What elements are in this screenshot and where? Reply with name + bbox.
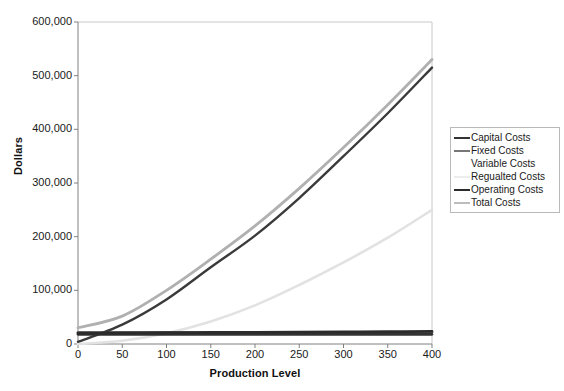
y-axis-tick-label: 400,000 (6, 122, 72, 134)
legend-color-swatch (453, 184, 471, 195)
legend-item-label: Fixed Costs (471, 144, 524, 157)
legend-item-label: Total Costs (471, 196, 520, 209)
x-axis-tick-label: 150 (189, 348, 233, 360)
y-axis-tick-label: 200,000 (6, 230, 72, 242)
y-axis-tick-label: 600,000 (6, 15, 72, 27)
x-axis-title: Production Level (78, 367, 432, 379)
legend-item[interactable]: Fixed Costs (453, 144, 557, 157)
x-axis-tick-label: 0 (56, 348, 100, 360)
x-axis-tick-label: 50 (100, 348, 144, 360)
legend-color-swatch (453, 197, 471, 208)
legend-item[interactable]: Operating Costs (453, 183, 557, 196)
legend-color-swatch (453, 171, 471, 182)
legend-item-label: Capital Costs (471, 131, 530, 144)
plot-background (78, 22, 432, 344)
cost-chart: Dollars 0100,000200,000300,000400,000500… (0, 0, 564, 391)
legend-item-label: Variable Costs (471, 157, 535, 170)
series-line (78, 331, 432, 333)
y-axis-tick-labels: 0100,000200,000300,000400,000500,000600,… (6, 0, 72, 391)
legend-color-swatch (453, 145, 471, 156)
x-axis-tick-label: 300 (322, 348, 366, 360)
x-axis-tick-label: 400 (410, 348, 454, 360)
y-axis-tick-label: 500,000 (6, 69, 72, 81)
legend-color-swatch (453, 132, 471, 143)
y-axis-tick-label: 100,000 (6, 283, 72, 295)
legend-item-label: Operating Costs (471, 183, 543, 196)
legend-item-label: Regualted Costs (471, 170, 545, 183)
chart-legend: Capital CostsFixed CostsVariable CostsRe… (450, 127, 560, 213)
x-axis-tick-label: 250 (277, 348, 321, 360)
x-axis-tick-label: 200 (233, 348, 277, 360)
legend-item[interactable]: Variable Costs (453, 157, 557, 170)
legend-item[interactable]: Capital Costs (453, 131, 557, 144)
x-axis-tick-label: 100 (145, 348, 189, 360)
legend-item[interactable]: Total Costs (453, 196, 557, 209)
x-axis-tick-label: 350 (366, 348, 410, 360)
legend-item[interactable]: Regualted Costs (453, 170, 557, 183)
y-axis-tick-label: 300,000 (6, 176, 72, 188)
legend-color-swatch (453, 158, 471, 169)
